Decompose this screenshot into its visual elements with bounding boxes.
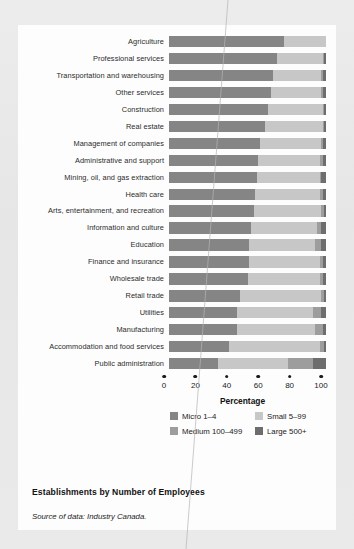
source-label: Source of data: bbox=[32, 512, 85, 521]
bar-category-label: Accommodation and food services bbox=[18, 343, 169, 350]
bar-category-label: Other services bbox=[18, 89, 169, 96]
bar-rows: AgricultureProfessional servicesTranspor… bbox=[18, 34, 336, 371]
bar-row: Arts, entertainment, and recreation bbox=[18, 203, 336, 219]
x-axis-tick-dot bbox=[256, 375, 260, 379]
bar-row: Administrative and support bbox=[18, 153, 336, 169]
legend-swatch-micro bbox=[170, 412, 178, 420]
bar-category-label: Administrative and support bbox=[18, 157, 169, 164]
stacked-bar bbox=[169, 172, 326, 183]
stacked-bar bbox=[169, 341, 326, 352]
bar-segment-small bbox=[273, 70, 322, 81]
bar-segment-micro bbox=[169, 189, 255, 200]
stacked-bar bbox=[169, 138, 326, 149]
stacked-bar bbox=[169, 290, 326, 301]
bar-segment-large bbox=[323, 138, 326, 149]
bar-category-label: Real estate bbox=[18, 123, 169, 130]
stacked-bar bbox=[169, 104, 326, 115]
bar-segment-large bbox=[323, 273, 326, 284]
bar-category-label: Education bbox=[18, 241, 169, 248]
stacked-bar bbox=[169, 358, 326, 369]
bar-segment-large bbox=[323, 155, 326, 166]
stacked-bar bbox=[169, 155, 326, 166]
bar-segment-small bbox=[255, 189, 319, 200]
bar-category-label: Utilities bbox=[18, 309, 169, 316]
bar-row: Manufacturing bbox=[18, 322, 336, 338]
bar-segment-micro bbox=[169, 172, 257, 183]
legend-swatch-small bbox=[255, 412, 263, 420]
x-axis-tick-dot bbox=[162, 375, 166, 379]
bar-segment-small bbox=[237, 307, 314, 318]
bar-row: Real estate bbox=[18, 119, 336, 135]
bar-row: Public administration bbox=[18, 356, 336, 372]
bar-segment-small bbox=[248, 273, 320, 284]
bar-row: Construction bbox=[18, 102, 336, 118]
x-axis-tick-label: 100 bbox=[314, 381, 327, 390]
source-value: Industry Canada. bbox=[87, 512, 146, 521]
bar-segment-large bbox=[323, 256, 326, 267]
x-axis-tick-label: 20 bbox=[191, 381, 200, 390]
bar-segment-micro bbox=[169, 205, 254, 216]
figure-title: Establishments by Number of Employees bbox=[32, 487, 205, 497]
x-axis-tick-dot bbox=[225, 375, 229, 379]
bar-segment-micro bbox=[169, 273, 248, 284]
bar-category-label: Public administration bbox=[18, 360, 169, 367]
x-axis: 020406080100 bbox=[164, 373, 321, 395]
bar-category-label: Retail trade bbox=[18, 292, 169, 299]
bar-segment-large bbox=[323, 324, 326, 335]
bar-segment-large bbox=[321, 172, 326, 183]
bar-row: Wholesale trade bbox=[18, 271, 336, 287]
bar-category-label: Health care bbox=[18, 191, 169, 198]
bar-segment-micro bbox=[169, 222, 251, 233]
bar-segment-small bbox=[237, 324, 316, 335]
stacked-bar bbox=[169, 273, 326, 284]
x-axis-tick-label: 40 bbox=[222, 381, 231, 390]
bar-category-label: Construction bbox=[18, 106, 169, 113]
bar-segment-small bbox=[268, 104, 323, 115]
x-axis-tick-dot bbox=[194, 375, 198, 379]
bar-segment-small bbox=[277, 53, 323, 64]
bar-category-label: Professional services bbox=[18, 55, 169, 62]
bar-segment-micro bbox=[169, 239, 249, 250]
bar-row: Information and culture bbox=[18, 220, 336, 236]
legend-item: Micro 1–4 bbox=[170, 412, 251, 421]
chart-legend: Micro 1–4Small 5–99Medium 100–499Large 5… bbox=[170, 412, 336, 436]
x-axis-tick-label: 0 bbox=[162, 381, 166, 390]
bar-category-label: Finance and insurance bbox=[18, 258, 169, 265]
bar-segment-large bbox=[313, 358, 326, 369]
bar-segment-large bbox=[321, 222, 326, 233]
bar-segment-micro bbox=[169, 256, 249, 267]
bar-segment-large bbox=[323, 87, 326, 98]
stacked-bar bbox=[169, 70, 326, 81]
bar-segment-large bbox=[324, 205, 326, 216]
x-axis-tick-label: 60 bbox=[254, 381, 263, 390]
stacked-bar bbox=[169, 222, 326, 233]
bar-segment-large bbox=[324, 104, 326, 115]
bar-segment-small bbox=[260, 138, 321, 149]
stacked-bar bbox=[169, 205, 326, 216]
legend-item: Large 500+ bbox=[255, 427, 336, 436]
stacked-bar bbox=[169, 307, 326, 318]
bar-segment-large bbox=[324, 290, 326, 301]
bar-segment-small bbox=[258, 155, 319, 166]
bar-category-label: Wholesale trade bbox=[18, 275, 169, 282]
bar-segment-micro bbox=[169, 138, 260, 149]
bar-row: Health care bbox=[18, 186, 336, 202]
bar-category-label: Transportation and warehousing bbox=[18, 72, 169, 79]
bar-segment-large bbox=[324, 121, 326, 132]
legend-item: Small 5–99 bbox=[255, 412, 336, 421]
x-axis-tick-dot bbox=[319, 375, 323, 379]
bar-segment-micro bbox=[169, 87, 271, 98]
bar-category-label: Mining, oil, and gas extraction bbox=[18, 174, 169, 181]
bar-segment-small bbox=[254, 205, 322, 216]
bar-segment-large bbox=[321, 307, 326, 318]
legend-label: Large 500+ bbox=[267, 427, 307, 436]
bar-segment-medium bbox=[288, 358, 313, 369]
bar-row: Professional services bbox=[18, 51, 336, 67]
stacked-bar bbox=[169, 121, 326, 132]
stacked-bar bbox=[169, 324, 326, 335]
bar-segment-micro bbox=[169, 104, 268, 115]
bar-segment-micro bbox=[169, 290, 240, 301]
bar-segment-medium bbox=[313, 307, 321, 318]
legend-label: Medium 100–499 bbox=[182, 427, 242, 436]
bar-segment-small bbox=[249, 256, 320, 267]
